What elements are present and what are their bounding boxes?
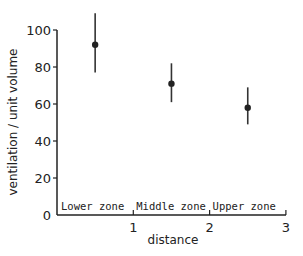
y-tick-label: 40: [34, 134, 51, 149]
zone-label: Lower zone: [61, 200, 124, 212]
data-point: [245, 105, 251, 111]
x-tick-label: 1: [129, 220, 137, 235]
y-tick-label: 80: [34, 60, 51, 75]
zone-label: Upper zone: [213, 200, 276, 212]
data-point: [92, 42, 98, 48]
y-axis-title: ventilation / unit volume: [6, 49, 20, 196]
x-tick-label: 3: [282, 220, 290, 235]
y-ticks: 020406080100: [26, 23, 57, 223]
zone-labels: Lower zoneMiddle zoneUpper zone: [61, 200, 276, 212]
y-tick-label: 60: [34, 97, 51, 112]
chart: 020406080100 123 Lower zoneMiddle zoneUp…: [0, 0, 303, 256]
y-tick-label: 0: [43, 208, 51, 223]
y-tick-label: 100: [26, 23, 51, 38]
data-points: [92, 13, 251, 124]
x-axis-title: distance: [148, 233, 199, 247]
y-tick-label: 20: [34, 171, 51, 186]
x-ticks: 123: [129, 210, 290, 235]
zone-label: Middle zone: [136, 200, 206, 212]
data-point: [168, 80, 174, 86]
x-tick-label: 2: [205, 220, 213, 235]
